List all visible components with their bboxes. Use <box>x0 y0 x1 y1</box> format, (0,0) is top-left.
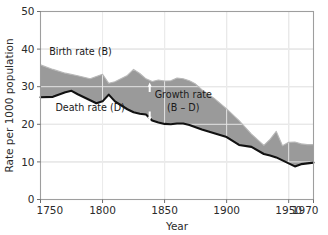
y-axis-tick-label: 50 <box>21 5 34 17</box>
chart-figure: 175018001850190019501970 50403020100 Yea… <box>0 0 328 235</box>
growth-rate-annotation-line1: Growth rate <box>155 89 212 100</box>
y-axis-tick-label: 10 <box>21 156 34 168</box>
x-axis-tick-label: 1970 <box>292 204 319 216</box>
death-rate-annotation: Death rate (D) <box>55 102 124 113</box>
birth-rate-annotation: Birth rate (B) <box>49 46 112 57</box>
x-axis-tick-label: 1850 <box>151 204 178 216</box>
y-axis-tick-label: 40 <box>21 43 34 55</box>
demographic-transition-chart: 175018001850190019501970 50403020100 Yea… <box>0 0 328 235</box>
y-axis-title: Rate per 1000 population <box>3 38 15 172</box>
y-axis-tick-label: 30 <box>21 80 34 92</box>
x-axis-tick-label: 1750 <box>37 204 64 216</box>
x-axis-tick-label: 1800 <box>89 204 116 216</box>
y-axis-tick-label: 20 <box>21 118 34 130</box>
x-axis-tick-label: 1900 <box>213 204 240 216</box>
y-axis-tick-label: 0 <box>28 193 35 205</box>
growth-rate-annotation-line2: (B – D) <box>167 102 199 113</box>
x-axis-title: Year <box>165 220 189 232</box>
